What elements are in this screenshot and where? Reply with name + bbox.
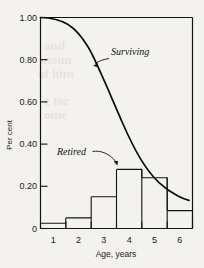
bleed-line-4: e tor: [44, 93, 70, 108]
x-tick-label-3: 3: [101, 235, 106, 245]
x-tick-label-2: 2: [76, 235, 81, 245]
x-tick-label-1: 1: [51, 235, 56, 245]
y-tick-label-3: 0.60: [19, 97, 37, 107]
bleed-line-3: of him: [38, 66, 74, 81]
x-axis-title: Age, years: [96, 249, 137, 259]
bleed-line-5: ome: [44, 107, 67, 122]
y-tick-label-5: 1.00: [19, 13, 37, 23]
figure-panel: and moun of him e tor ome 0 0.20 0.40 0.…: [0, 0, 204, 268]
y-tick-label-2: 0.40: [19, 139, 37, 149]
x-tick-label-6: 6: [177, 235, 182, 245]
y-axis-title: Per cent: [5, 119, 14, 150]
y-tick-label-4: 0.80: [19, 55, 37, 65]
y-tick-label-1: 0.20: [19, 181, 37, 191]
retired-label: Retired: [56, 146, 87, 157]
surviving-label: Surviving: [111, 46, 149, 57]
y-tick-label-0: 0: [32, 224, 37, 234]
chart-svg: and moun of him e tor ome 0 0.20 0.40 0.…: [0, 0, 204, 268]
x-tick-label-5: 5: [152, 235, 157, 245]
bleed-line-1: and: [44, 38, 66, 53]
paper-background: [0, 0, 204, 268]
x-tick-label-4: 4: [127, 235, 132, 245]
